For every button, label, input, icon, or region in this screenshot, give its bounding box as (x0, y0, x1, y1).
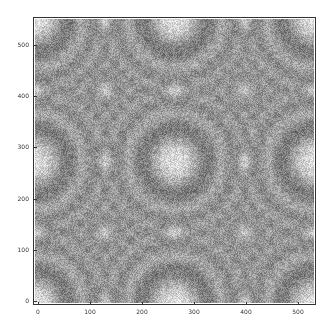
y-tick-mark (34, 45, 37, 46)
x-tick-mark (194, 302, 195, 305)
y-tick-mark (34, 250, 37, 251)
y-tick-mark (34, 147, 37, 148)
x-tick-label: 400 (234, 309, 258, 315)
interference-pattern-image (35, 19, 314, 303)
y-tick-label: 300 (5, 144, 29, 150)
x-tick-label: 100 (78, 309, 102, 315)
y-tick-mark (34, 96, 37, 97)
x-tick-label: 500 (286, 309, 310, 315)
x-tick-mark (298, 302, 299, 305)
y-tick-label: 400 (5, 93, 29, 99)
x-tick-label: 200 (130, 309, 154, 315)
y-tick-label: 200 (5, 196, 29, 202)
y-tick-mark (34, 301, 37, 302)
x-tick-label: 0 (26, 309, 50, 315)
y-tick-label: 500 (5, 42, 29, 48)
x-tick-mark (38, 302, 39, 305)
x-tick-mark (142, 302, 143, 305)
x-tick-mark (246, 302, 247, 305)
y-tick-mark (34, 199, 37, 200)
y-tick-label: 100 (5, 247, 29, 253)
x-tick-mark (90, 302, 91, 305)
y-tick-label: 0 (5, 298, 29, 304)
x-tick-label: 300 (182, 309, 206, 315)
